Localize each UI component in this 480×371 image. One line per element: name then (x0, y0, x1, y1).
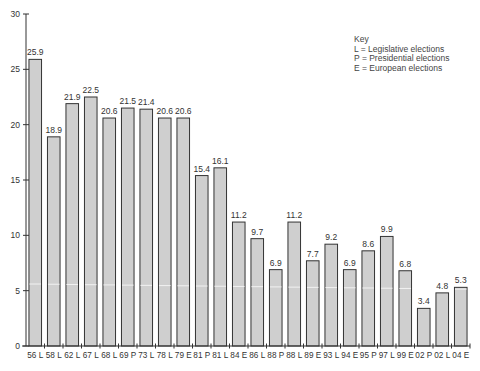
bar (380, 236, 393, 346)
bar-value-label: 9.7 (251, 227, 263, 237)
bar (195, 176, 208, 346)
legend-key: Key L = Legislative elections P = Presid… (354, 35, 450, 73)
x-tick-label: 73 L (138, 351, 154, 360)
bar (417, 308, 430, 346)
x-tick-label: 84 E (230, 351, 247, 360)
x-tick-label: 97 L (379, 351, 395, 360)
x-tick-label: 86 L (249, 351, 265, 360)
bar-value-label: 25.9 (27, 47, 44, 57)
bar-value-label: 9.2 (325, 232, 337, 242)
x-tick-label: 62 L (64, 351, 80, 360)
bar (121, 108, 134, 346)
bar-value-label: 4.8 (436, 281, 448, 291)
y-tick-label: 15 (11, 175, 21, 185)
bars-group: 25.918.921.922.520.621.521.420.620.615.4… (27, 47, 467, 346)
x-tick-label: 81 P (193, 351, 210, 360)
x-tick-label: 93 L (323, 351, 339, 360)
x-tick-label: 02 L (434, 351, 450, 360)
bar-value-label: 18.9 (45, 125, 62, 135)
bar-value-label: 20.6 (156, 106, 173, 116)
bar (214, 168, 227, 346)
x-tick-label: 99 E (397, 351, 414, 360)
bar-value-label: 7.7 (307, 249, 319, 259)
bar (251, 239, 264, 346)
bar (454, 287, 467, 346)
y-tick-label: 10 (11, 230, 21, 240)
x-tick-label: 56 L (27, 351, 43, 360)
bar (362, 251, 375, 346)
bar-value-label: 21.4 (138, 97, 155, 107)
bar-value-label: 11.2 (231, 210, 247, 220)
bar-value-label: 9.9 (381, 224, 393, 234)
x-tick-label: 95 P (360, 351, 377, 360)
bar (325, 244, 338, 346)
bar (103, 118, 116, 346)
bar-value-label: 5.3 (455, 275, 467, 285)
x-tick-label: 88 P (267, 351, 284, 360)
bar (436, 293, 449, 346)
x-tick-label: 88 L (286, 351, 302, 360)
bar-value-label: 16.1 (212, 156, 229, 166)
x-tick-label: 58 L (46, 351, 62, 360)
bar (66, 104, 79, 346)
legend-entry-european: E = European elections (354, 64, 450, 74)
y-tick-label: 25 (11, 64, 21, 74)
bar-value-label: 8.6 (362, 239, 374, 249)
bar-value-label: 6.8 (399, 259, 411, 269)
bar (306, 261, 319, 346)
bar-value-label: 22.5 (82, 85, 99, 95)
x-tick-label: 69 P (119, 351, 136, 360)
x-tick-label: 67 L (83, 351, 99, 360)
bar-value-label: 15.4 (193, 164, 210, 174)
bar (158, 118, 171, 346)
bar (343, 270, 356, 346)
bar (399, 271, 412, 346)
bar-value-label: 11.2 (286, 210, 302, 220)
bar-value-label: 21.9 (64, 92, 81, 102)
bar (269, 270, 282, 346)
bar-value-label: 20.6 (101, 106, 118, 116)
bar (288, 222, 301, 346)
x-tick-label: 02 P (415, 351, 432, 360)
bar-value-label: 21.5 (119, 96, 136, 106)
bar (84, 97, 97, 346)
x-tick-label: 68 L (101, 351, 117, 360)
bar (47, 137, 60, 346)
bar (177, 118, 190, 346)
y-tick-label: 20 (11, 120, 21, 130)
x-tick-label: 94 E (341, 351, 358, 360)
y-tick-label: 5 (15, 286, 20, 296)
x-tick-label: 79 E (175, 351, 192, 360)
x-tick-label: 78 L (157, 351, 173, 360)
bar-value-label: 20.6 (175, 106, 192, 116)
bar-value-label: 6.9 (344, 258, 356, 268)
bar-value-label: 6.9 (270, 258, 282, 268)
bar (29, 59, 42, 346)
bar (140, 109, 153, 346)
x-tick-label: 81 L (212, 351, 228, 360)
x-tick-label: 04 E (452, 351, 469, 360)
y-tick-label: 0 (15, 341, 20, 351)
bar-value-label: 3.4 (418, 296, 430, 306)
y-tick-label: 30 (11, 9, 21, 19)
x-tick-label: 89 E (304, 351, 321, 360)
bar (232, 222, 245, 346)
